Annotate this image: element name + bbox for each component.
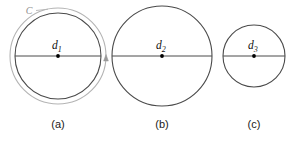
circumference-arrowhead-icon <box>104 55 109 62</box>
circumference-label-a: C <box>26 5 33 16</box>
circles-diagram: C d1 (a) d2 (b) <box>0 0 290 141</box>
center-dot-b <box>160 54 164 58</box>
center-dot-c <box>252 54 256 58</box>
diameter-label-c-subscript: 3 <box>253 45 258 54</box>
panel-c: d3 (c) <box>223 25 285 130</box>
center-dot-a <box>56 54 60 58</box>
caption-b: (b) <box>155 118 168 130</box>
caption-a: (a) <box>51 118 64 130</box>
diameter-label-b-subscript: 2 <box>162 45 166 54</box>
caption-c: (c) <box>248 118 261 130</box>
panel-a: C d1 (a) <box>10 5 108 130</box>
diameter-label-a-subscript: 1 <box>58 45 62 54</box>
diameter-label-c: d3 <box>248 39 258 54</box>
diameter-label-a: d1 <box>52 39 62 54</box>
figure-container: C d1 (a) d2 (b) <box>0 0 290 141</box>
panel-b: d2 (b) <box>112 6 212 130</box>
diameter-label-b: d2 <box>156 39 166 54</box>
